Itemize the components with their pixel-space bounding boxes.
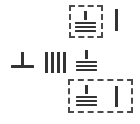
chassis-ground-symbol-top[interactable]	[75, 11, 96, 32]
ground-stem-icon	[85, 50, 88, 59]
ground-bar-icon	[76, 100, 97, 103]
ground-bar-icon	[76, 65, 97, 68]
earth-tee-symbol[interactable]	[11, 52, 34, 68]
tally-bar-icon	[45, 52, 48, 73]
tally-bar-icon	[63, 52, 66, 73]
tee-stem-icon	[21, 52, 24, 65]
vertical-bar-glyph-bottom[interactable]	[115, 86, 118, 107]
tally-bars-four[interactable]	[45, 52, 66, 73]
symbol-canvas	[0, 0, 140, 124]
ground-bar-icon	[75, 30, 96, 33]
ground-bar-icon	[75, 26, 96, 29]
ground-bar-icon	[75, 22, 96, 25]
tally-bar-icon	[51, 52, 54, 73]
chassis-ground-symbol-middle[interactable]	[76, 50, 97, 71]
ground-bar-icon	[76, 104, 97, 107]
ground-stem-icon	[84, 11, 87, 20]
vertical-bar-glyph-top[interactable]	[115, 9, 118, 31]
ground-bar-icon	[76, 61, 97, 64]
ground-bar-icon	[76, 96, 97, 99]
ground-bar-icon	[76, 69, 97, 72]
chassis-ground-symbol-bottom[interactable]	[76, 85, 97, 106]
tee-bar-icon	[11, 65, 34, 68]
ground-stem-icon	[85, 85, 88, 94]
tally-bar-icon	[57, 52, 60, 73]
